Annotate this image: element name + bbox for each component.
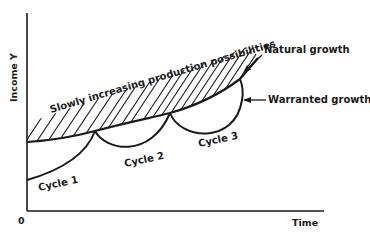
- cycle-2-label: Cycle 2: [123, 150, 165, 169]
- cycle-1-label: Cycle 1: [37, 174, 79, 193]
- origin-label: 0: [18, 215, 25, 226]
- y-axis-label: Income Y: [8, 53, 19, 102]
- diagram-canvas: Income Y Time 0 Slowly increasing produc…: [0, 0, 370, 237]
- cycle-2-curve: [95, 113, 170, 147]
- x-axis-label: Time: [292, 217, 318, 228]
- warranted-growth-label: Warranted growth: [268, 94, 370, 105]
- growth-cycles-diagram: Income Y Time 0 Slowly increasing produc…: [0, 0, 370, 237]
- natural-growth-label: Natural growth: [264, 44, 350, 55]
